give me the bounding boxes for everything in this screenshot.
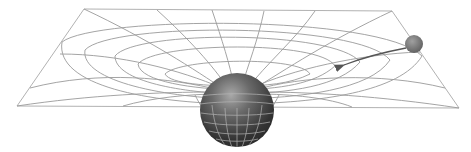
massive-body xyxy=(200,73,274,148)
gravity-well-diagram: Spacetime curvature / gravity well xyxy=(0,0,471,152)
small-body xyxy=(405,35,423,53)
